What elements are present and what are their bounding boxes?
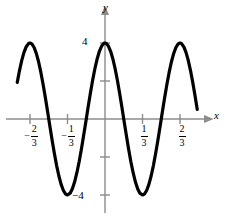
x-axis-label: x: [214, 110, 219, 121]
fraction-numerator: 2: [179, 124, 186, 135]
y-tick-label-neg4: −4: [72, 190, 84, 201]
graph-figure: y x 4 −4 − 2 3 − 1 3 1 3 2 3: [0, 0, 227, 220]
fraction-sign: −: [61, 131, 67, 141]
fraction-denominator: 3: [179, 138, 186, 149]
y-axis-label: y: [103, 2, 108, 13]
fraction-numerator: 1: [68, 124, 75, 135]
fraction-numerator: 2: [31, 124, 38, 135]
y-tick-label-4: 4: [82, 36, 88, 47]
fraction-stack: 2 3: [31, 124, 38, 148]
fraction-stack: 2 3: [179, 124, 186, 148]
fraction-numerator: 1: [141, 124, 148, 135]
fraction-denominator: 3: [68, 138, 75, 149]
x-tick-label-neg-two-thirds: − 2 3: [18, 124, 44, 148]
fraction-sign: −: [24, 131, 30, 141]
x-tick-label-two-thirds: 2 3: [172, 124, 192, 148]
fraction-denominator: 3: [141, 138, 148, 149]
fraction-stack: 1 3: [68, 124, 75, 148]
fraction-stack: 1 3: [141, 124, 148, 148]
x-tick-label-one-third: 1 3: [134, 124, 154, 148]
coordinate-plane: [0, 0, 227, 220]
fraction-denominator: 3: [31, 138, 38, 149]
x-tick-label-neg-one-third: − 1 3: [55, 124, 81, 148]
